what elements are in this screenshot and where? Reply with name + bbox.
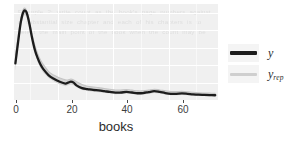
legend: y yrep — [228, 36, 301, 94]
density-curves-svg — [14, 4, 218, 100]
plot-panel: Example 2: write count as the book's pag… — [14, 4, 218, 100]
x-tick-60 — [183, 100, 184, 103]
x-tick-label-60: 60 — [177, 104, 188, 115]
x-tick-20 — [72, 100, 73, 103]
x-tick-40 — [127, 100, 128, 103]
light-line-swatch-icon — [230, 73, 257, 76]
legend-swatch-box — [228, 44, 259, 62]
legend-label-yrep-sub: rep — [273, 73, 283, 82]
x-axis-tick-labels: 0 20 40 60 — [0, 104, 232, 117]
legend-label-y-text: y — [268, 46, 273, 60]
x-tick-0 — [16, 100, 17, 103]
legend-label-y: y — [268, 46, 273, 61]
dark-line-swatch-icon — [230, 51, 257, 55]
x-tick-label-20: 20 — [66, 104, 77, 115]
x-tick-label-40: 40 — [121, 104, 132, 115]
legend-label-yrep: yrep — [268, 67, 284, 82]
legend-swatch-box — [228, 65, 259, 83]
x-tick-label-0: 0 — [13, 104, 19, 115]
yrep-band-path — [15, 8, 215, 96]
legend-item-yrep[interactable]: yrep — [228, 65, 301, 83]
x-axis-title: books — [14, 119, 218, 134]
y-observed-line-path — [15, 10, 215, 95]
yrep-line-path — [15, 8, 215, 93]
legend-item-y[interactable]: y — [228, 44, 301, 62]
ppc-density-overlay-figure: Example 2: write count as the book's pag… — [0, 0, 301, 145]
